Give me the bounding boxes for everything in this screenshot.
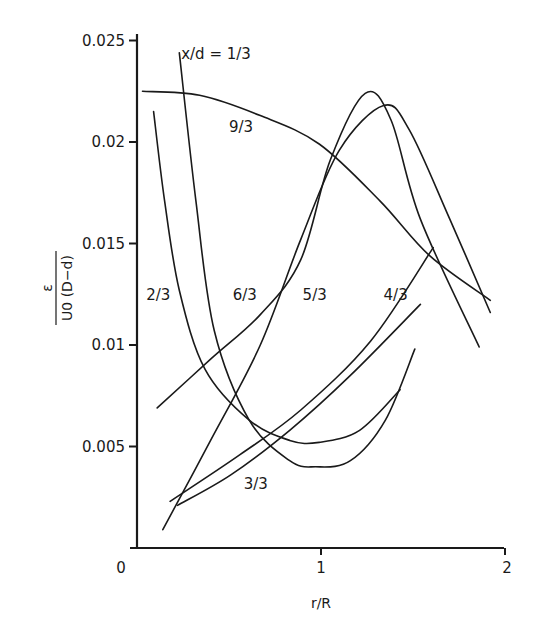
curve-label-9-3: 9/3	[229, 118, 253, 136]
y-tick-label: 0.02	[92, 133, 125, 151]
curve-label-1-3: x/d = 1/3	[181, 45, 251, 63]
y-tick-label: 0.015	[82, 235, 125, 253]
x-tick-label: 0	[116, 559, 126, 577]
curve-3-3	[178, 304, 421, 505]
curve-label-4-3: 4/3	[384, 286, 408, 304]
y-ticks: 0.0050.010.0150.020.025	[82, 32, 137, 456]
y-axis-title-numerator: ε	[39, 284, 55, 292]
chart: 0.0050.010.0150.020.025 012 x/d = 1/32/3…	[0, 0, 534, 635]
curve-label-6-3: 6/3	[233, 286, 257, 304]
curve-label-2-3: 2/3	[146, 286, 170, 304]
curve-1-3	[179, 53, 414, 467]
y-tick-label: 0.005	[82, 438, 125, 456]
y-tick-label: 0.025	[82, 32, 125, 50]
x-tick-label: 1	[316, 559, 326, 577]
x-axis-title: r/R	[311, 595, 331, 611]
curve-label-3-3: 3/3	[244, 475, 268, 493]
x-ticks: 012	[116, 548, 512, 577]
plot-area: 0.0050.010.0150.020.025 012 x/d = 1/32/3…	[82, 32, 512, 578]
x-tick-label: 2	[502, 559, 512, 577]
curve-label-5-3: 5/3	[303, 286, 327, 304]
y-axis-title-denominator: U0 (D−d)	[59, 255, 75, 321]
y-axis-title: ε U0 (D−d)	[39, 251, 75, 325]
y-tick-label: 0.01	[92, 336, 125, 354]
